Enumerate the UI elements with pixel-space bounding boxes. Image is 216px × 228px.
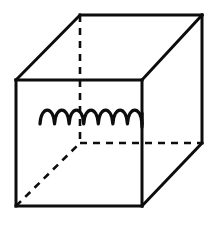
figure-canvas [0, 0, 216, 228]
cube-diagram [0, 0, 216, 228]
